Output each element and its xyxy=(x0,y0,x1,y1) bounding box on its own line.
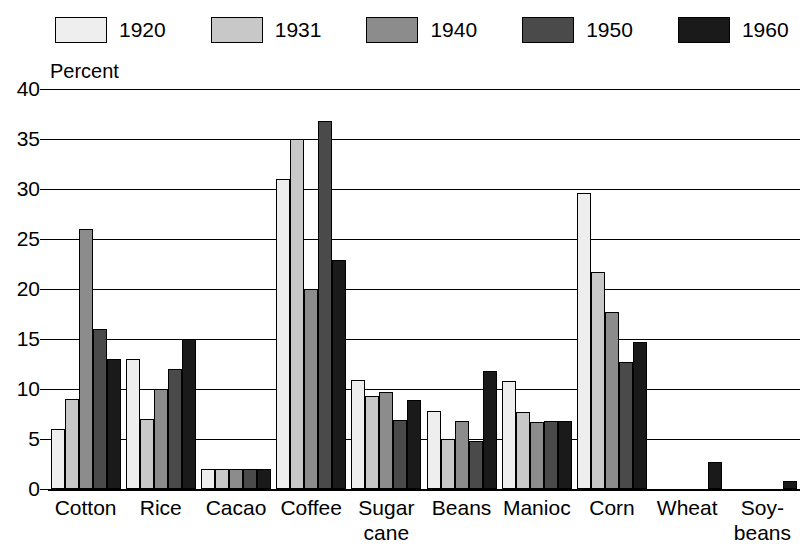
bar xyxy=(619,362,633,489)
bar xyxy=(65,399,79,489)
x-axis-labels: CottonRiceCacaoCoffeeSugarcaneBeansManio… xyxy=(48,495,800,559)
bar xyxy=(93,329,107,489)
bar xyxy=(215,469,229,489)
bar xyxy=(276,179,290,489)
bar xyxy=(558,421,572,489)
bar xyxy=(154,389,168,489)
bar xyxy=(393,420,407,489)
bar-group xyxy=(577,89,647,489)
bar xyxy=(257,469,271,489)
y-tick-mark xyxy=(40,239,48,240)
bar xyxy=(605,312,619,489)
bar xyxy=(441,439,455,489)
bar xyxy=(201,469,215,489)
y-tick-mark xyxy=(40,489,48,490)
bar xyxy=(708,462,722,489)
bar xyxy=(107,359,121,489)
bar xyxy=(351,380,365,489)
bar xyxy=(290,139,304,489)
x-axis-baseline xyxy=(48,489,800,491)
bar-group xyxy=(276,89,346,489)
bar xyxy=(79,229,93,489)
y-tick-label: 25 xyxy=(0,228,40,249)
bar xyxy=(469,441,483,489)
bar xyxy=(577,193,591,489)
y-tick-label: 30 xyxy=(0,178,40,199)
chart-plot-area: Percent 0510152025303540 CottonRiceCacao… xyxy=(0,0,810,559)
bar-group xyxy=(502,89,572,489)
bar xyxy=(229,469,243,489)
bar-groups xyxy=(48,89,800,489)
bar-group xyxy=(201,89,271,489)
bar-group xyxy=(427,89,497,489)
y-tick-label: 35 xyxy=(0,128,40,149)
bar xyxy=(168,369,182,489)
bar xyxy=(304,289,318,489)
y-tick-mark xyxy=(40,89,48,90)
bar xyxy=(502,381,516,489)
bar xyxy=(126,359,140,489)
bar xyxy=(182,339,196,489)
bar xyxy=(51,429,65,489)
bar xyxy=(530,422,544,489)
y-tick-mark xyxy=(40,189,48,190)
bar xyxy=(318,121,332,489)
y-tick-mark xyxy=(40,439,48,440)
bar xyxy=(332,260,346,489)
bar xyxy=(455,421,469,489)
y-tick-label: 0 xyxy=(0,478,40,499)
bar xyxy=(544,421,558,489)
y-tick-mark xyxy=(40,289,48,290)
x-axis-label: Soy-beans xyxy=(715,495,809,545)
bar-group xyxy=(51,89,121,489)
y-tick-label: 15 xyxy=(0,328,40,349)
bar xyxy=(379,392,393,489)
y-tick-mark xyxy=(40,339,48,340)
bar xyxy=(365,396,379,489)
bar xyxy=(516,412,530,489)
bar xyxy=(243,469,257,489)
bar-group xyxy=(652,89,722,489)
bar xyxy=(140,419,154,489)
bar-group xyxy=(126,89,196,489)
bar xyxy=(783,481,797,489)
bar xyxy=(427,411,441,489)
x-axis-label-line: Soy- xyxy=(715,495,809,520)
y-tick-label: 5 xyxy=(0,428,40,449)
bar xyxy=(633,342,647,489)
y-axis-title: Percent xyxy=(50,60,119,83)
bar-group xyxy=(351,89,421,489)
y-tick-label: 10 xyxy=(0,378,40,399)
y-tick-label: 20 xyxy=(0,278,40,299)
bar xyxy=(591,272,605,489)
y-tick-label: 40 xyxy=(0,78,40,99)
bar xyxy=(483,371,497,489)
x-axis-label-line: beans xyxy=(715,520,809,545)
bar-group xyxy=(727,89,797,489)
y-tick-mark xyxy=(40,139,48,140)
bar xyxy=(407,400,421,489)
x-axis-label-line: cane xyxy=(339,520,433,545)
y-tick-mark xyxy=(40,389,48,390)
